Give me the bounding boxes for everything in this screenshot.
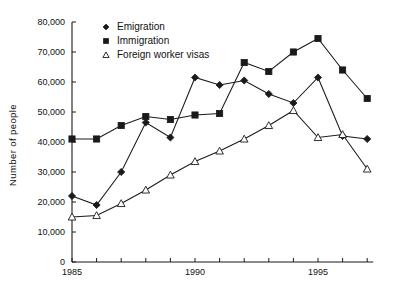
data-point xyxy=(265,90,272,97)
y-tick-label: 70,000 xyxy=(37,47,65,57)
data-point xyxy=(290,49,296,55)
data-point xyxy=(192,112,198,118)
y-tick-label: 20,000 xyxy=(37,197,65,207)
data-point xyxy=(117,200,125,207)
data-point xyxy=(290,107,298,114)
data-point xyxy=(339,131,347,138)
chart-legend: EmigrationImmigrationForeign worker visa… xyxy=(103,21,209,60)
legend-marker-open-triangle xyxy=(103,52,109,58)
data-point xyxy=(363,165,371,172)
x-tick-label: 1995 xyxy=(308,267,328,277)
y-tick-label: 50,000 xyxy=(37,107,65,117)
data-point xyxy=(241,59,247,65)
data-point xyxy=(69,136,75,142)
line-chart: 010,00020,00030,00040,00050,00060,00070,… xyxy=(0,0,400,293)
data-point xyxy=(191,74,198,81)
data-point xyxy=(143,113,149,119)
legend-marker-filled-diamond xyxy=(103,24,109,30)
chart-container: 010,00020,00030,00040,00050,00060,00070,… xyxy=(0,0,400,293)
series-foreign-worker-visas xyxy=(68,107,371,220)
y-tick-label: 40,000 xyxy=(37,137,65,147)
y-axis-title-text: Number of people xyxy=(7,104,18,186)
data-point xyxy=(118,122,124,128)
data-point xyxy=(191,158,199,165)
data-point xyxy=(364,135,371,142)
data-point xyxy=(364,95,370,101)
data-point xyxy=(315,35,321,41)
x-tick-label: 1990 xyxy=(185,267,205,277)
data-point xyxy=(167,116,173,122)
y-tick-label: 10,000 xyxy=(37,227,65,237)
data-point xyxy=(265,122,273,129)
legend-label: Immigration xyxy=(117,35,169,46)
data-point xyxy=(94,136,100,142)
y-tick-label: 30,000 xyxy=(37,167,65,177)
data-point xyxy=(240,135,248,142)
legend-label: Foreign worker visas xyxy=(117,49,209,60)
legend-label: Emigration xyxy=(117,21,165,32)
data-point xyxy=(167,171,175,178)
y-axis-title: Number of people xyxy=(7,104,18,186)
y-tick-label: 0 xyxy=(60,257,65,267)
data-point xyxy=(167,134,174,141)
x-tick-label: 1985 xyxy=(62,267,82,277)
data-point xyxy=(216,81,223,88)
y-tick-label: 80,000 xyxy=(37,17,65,27)
data-point xyxy=(68,192,75,199)
data-point xyxy=(216,147,224,154)
data-point xyxy=(241,77,248,84)
y-tick-label: 60,000 xyxy=(37,77,65,87)
data-point xyxy=(266,68,272,74)
x-axis: 198519901995 xyxy=(62,258,373,277)
series-emigration xyxy=(68,74,370,209)
data-point xyxy=(93,212,101,219)
data-point xyxy=(217,110,223,116)
data-point xyxy=(142,186,150,193)
legend-marker-filled-square xyxy=(104,39,109,44)
series-layer xyxy=(68,35,371,220)
data-point xyxy=(340,67,346,73)
